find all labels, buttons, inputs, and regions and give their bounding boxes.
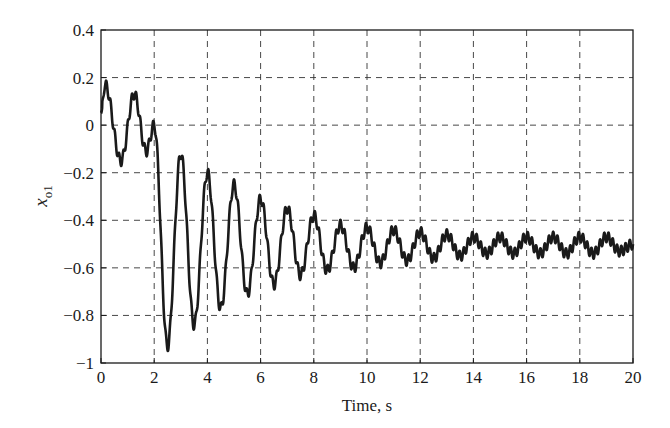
y-tick-label: −0.8 <box>63 306 94 325</box>
x-tick-label: 18 <box>571 368 588 387</box>
x-tick-label: 8 <box>310 368 319 387</box>
x-tick-label: 20 <box>625 368 642 387</box>
y-axis-ticks: −1−0.8−0.6−0.4−0.200.20.4 <box>63 21 106 373</box>
y-tick-label: −1 <box>76 354 94 373</box>
x-tick-label: 12 <box>412 368 429 387</box>
y-tick-label: 0.2 <box>73 69 94 88</box>
x-tick-label: 16 <box>518 368 535 387</box>
line-chart: 02468101214161820 −1−0.8−0.6−0.4−0.200.2… <box>0 0 670 428</box>
y-tick-label: −0.2 <box>63 164 94 183</box>
x-axis-label: Time, s <box>342 396 392 415</box>
x-tick-label: 14 <box>465 368 483 387</box>
x-tick-label: 6 <box>256 368 265 387</box>
grid-lines <box>101 30 633 363</box>
y-tick-label: 0 <box>86 116 95 135</box>
y-tick-label: 0.4 <box>73 21 95 40</box>
x-tick-label: 4 <box>203 368 212 387</box>
x-tick-label: 0 <box>97 368 106 387</box>
y-tick-label: −0.6 <box>63 259 94 278</box>
x-tick-label: 2 <box>150 368 159 387</box>
x-tick-label: 10 <box>359 368 376 387</box>
y-tick-label: −0.4 <box>63 211 94 230</box>
y-axis-label: xo1 <box>30 185 55 207</box>
y-axis-label-sub: o1 <box>40 185 55 198</box>
